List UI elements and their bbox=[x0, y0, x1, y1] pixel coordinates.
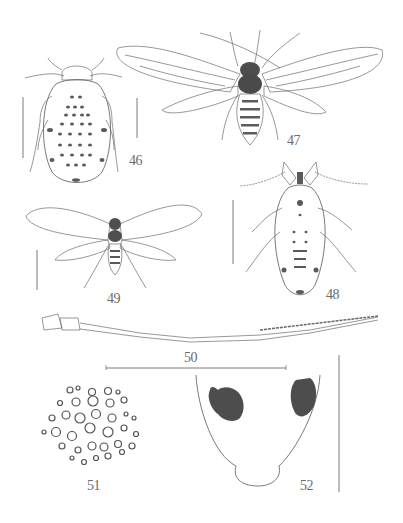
figure-label-49: 49 bbox=[107, 291, 120, 307]
figure-label-52: 52 bbox=[300, 478, 313, 494]
figure-label-48: 48 bbox=[326, 287, 339, 303]
figure-49-drawing bbox=[26, 205, 202, 290]
figure-46-drawing bbox=[23, 58, 137, 183]
figure-51-drawing bbox=[42, 386, 139, 465]
figure-label-46: 46 bbox=[129, 153, 142, 169]
figure-label-47: 47 bbox=[287, 133, 300, 149]
plate-drawings bbox=[0, 0, 403, 523]
figure-label-51: 51 bbox=[87, 478, 100, 494]
figure-47-drawing bbox=[117, 30, 383, 145]
figure-50-drawing bbox=[42, 314, 378, 370]
figure-plate: 46 47 48 49 50 51 52 bbox=[0, 0, 403, 523]
figure-52-drawing bbox=[196, 355, 339, 492]
figure-label-50: 50 bbox=[184, 350, 197, 366]
figure-48-drawing bbox=[233, 162, 368, 295]
